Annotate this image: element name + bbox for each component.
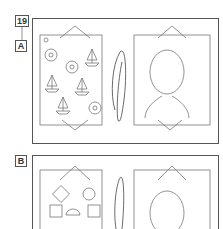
diagram-drawing	[0, 0, 223, 229]
